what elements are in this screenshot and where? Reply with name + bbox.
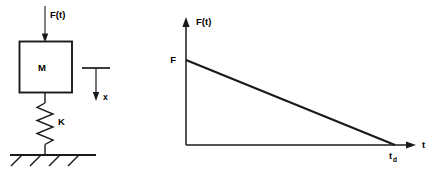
spring-stiffness-label: K <box>58 116 65 127</box>
x-duration-tick-subscript: d <box>393 156 397 163</box>
applied-force-label: F(t) <box>50 9 65 20</box>
force-decay-line <box>186 60 395 145</box>
spring-mass-panel: F(t) M K <box>10 6 110 166</box>
ground-support <box>10 155 96 166</box>
mass-label: M <box>38 62 46 73</box>
figure-container: F(t) M K <box>0 0 432 177</box>
x-axis-label: t <box>422 139 426 150</box>
figure-drawing: F(t) M K <box>0 0 432 177</box>
displacement-label: x <box>103 92 108 102</box>
x-axis <box>186 141 416 148</box>
x-duration-tick-label: t d <box>389 150 397 163</box>
applied-force-arrow <box>42 6 48 43</box>
y-peak-tick-label: F <box>170 54 176 65</box>
y-axis-label: F(t) <box>196 16 211 27</box>
spring-element <box>37 93 53 156</box>
force-time-plot-panel: F(t) t F t d <box>170 16 426 163</box>
y-axis <box>182 17 189 145</box>
